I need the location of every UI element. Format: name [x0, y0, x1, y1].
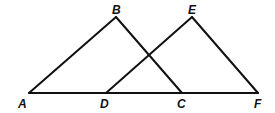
point-label-d: D: [100, 97, 109, 111]
segment-ef: [192, 17, 258, 93]
segment-de: [106, 17, 192, 93]
point-label-b: B: [112, 3, 121, 17]
point-label-e: E: [188, 3, 197, 17]
point-label-c: C: [177, 97, 186, 111]
triangle-diagram: ABCDEF: [0, 0, 275, 113]
point-label-f: F: [254, 97, 262, 111]
segment-ab: [29, 17, 116, 93]
point-label-a: A: [17, 97, 27, 111]
